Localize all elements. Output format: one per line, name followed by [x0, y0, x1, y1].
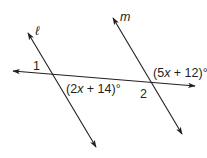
angle-2-label: 2	[140, 87, 147, 101]
angle-1-label: 1	[33, 59, 40, 73]
angle-expression-right: (5x + 12)°	[153, 66, 207, 80]
parallel-lines-diagram: ℓ m 1 2 (2x + 14)° (5x + 12)°	[0, 0, 207, 158]
line-l-label: ℓ	[35, 24, 40, 38]
angle-expression-left: (2x + 14)°	[66, 82, 121, 96]
diagram-canvas: ℓ m 1 2 (2x + 14)° (5x + 12)°	[0, 0, 207, 158]
line-m-label: m	[120, 10, 130, 24]
